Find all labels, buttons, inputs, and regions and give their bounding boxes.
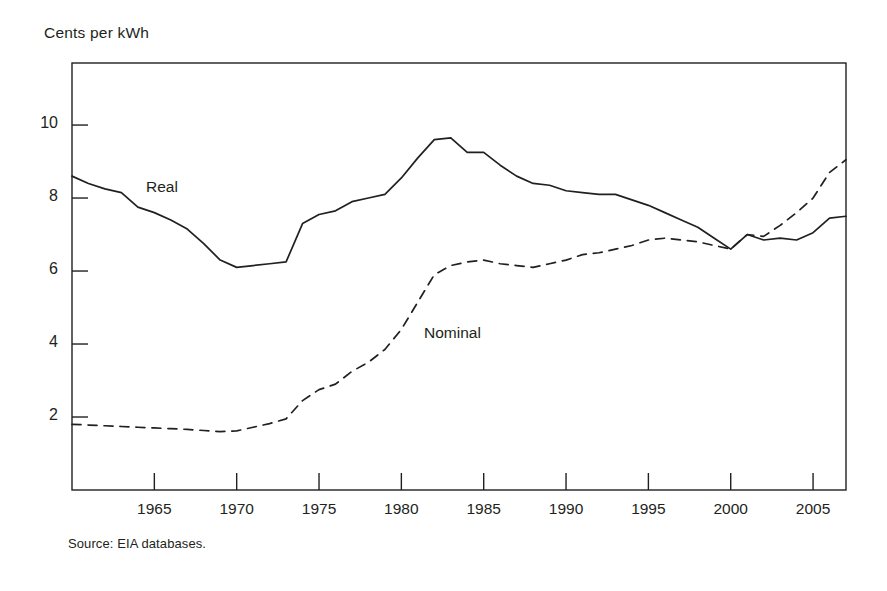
series-line-real — [72, 138, 846, 268]
series-label-nominal: Nominal — [424, 324, 481, 342]
y-tick-label: 8 — [24, 187, 58, 205]
x-tick-label: 2005 — [783, 500, 843, 518]
series-line-nominal — [72, 160, 846, 432]
source-note: Source: EIA databases. — [68, 536, 206, 551]
y-tick-label: 4 — [24, 333, 58, 351]
x-tick-label: 1985 — [454, 500, 514, 518]
series-label-real: Real — [146, 178, 178, 196]
y-tick-label: 6 — [24, 260, 58, 278]
x-tick-label: 1965 — [124, 500, 184, 518]
y-tick-label: 10 — [24, 114, 58, 132]
x-tick-label: 1995 — [618, 500, 678, 518]
plot-frame — [72, 63, 846, 490]
chart-figure: Cents per kWh Real Nominal Source: EIA d… — [0, 0, 887, 591]
x-tick-label: 2000 — [701, 500, 761, 518]
x-tick-label: 1990 — [536, 500, 596, 518]
y-tick-label: 2 — [24, 406, 58, 424]
x-tick-label: 1980 — [371, 500, 431, 518]
x-tick-label: 1975 — [289, 500, 349, 518]
x-tick-label: 1970 — [207, 500, 267, 518]
